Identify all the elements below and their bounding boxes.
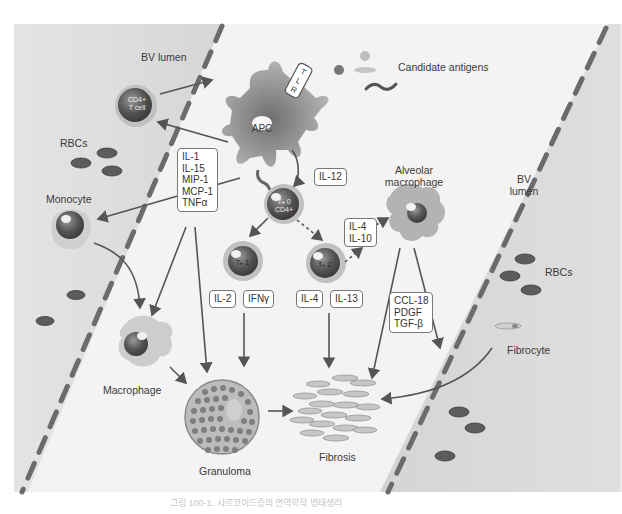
il2-box: IL-2 — [209, 290, 236, 308]
alveolar-cytokines-box: CCL-18 PDGF TGF-β — [389, 292, 433, 333]
bv-lumen-left-label: BV lumen — [141, 51, 187, 63]
candidate-antigens-label: Candidate antigens — [398, 61, 489, 73]
il12-box: IL-12 — [314, 168, 347, 186]
macrophage-label: Macrophage — [103, 384, 161, 396]
apc-cytokines-box: IL-1 IL-15 MIP-1 MCP-1 TNFα — [177, 148, 218, 212]
fibrosis-label: Fibrosis — [319, 451, 356, 463]
diagram-graphics: T L R — [0, 0, 622, 514]
th2-label: Tₕ 2 — [318, 259, 331, 271]
th1-label: Tₕ 1 — [236, 257, 249, 269]
granuloma-cluster — [185, 380, 259, 454]
granuloma-label: Granuloma — [199, 465, 251, 477]
bv-lumen-right-label: BV lumen — [504, 173, 544, 197]
th0-label: Tₕ 0 CD4+ — [272, 198, 296, 214]
alveolar-macrophage-label: Alveolar macrophage — [380, 164, 448, 188]
rbcs-right-label: RBCs — [545, 266, 572, 278]
diagram-canvas: T L R — [0, 0, 622, 514]
rbcs-left-label: RBCs — [60, 137, 87, 149]
il4-il10-box: IL-4 IL-10 — [344, 218, 377, 247]
figure-caption: 그림 100-1. 사르코이드증의 면역학적 병태생리 — [170, 496, 342, 509]
monocyte-label: Monocyte — [46, 193, 92, 205]
il13-box: IL-13 — [330, 290, 363, 308]
fibrocyte-cell — [495, 323, 521, 329]
fibrocyte-label: Fibrocyte — [507, 344, 550, 356]
apc-label: APC — [252, 123, 273, 134]
cd4-tcell-label: CD4+ T cell — [125, 96, 149, 112]
ifng-box: IFNγ — [243, 290, 274, 308]
il4-box: IL-4 — [296, 290, 323, 308]
